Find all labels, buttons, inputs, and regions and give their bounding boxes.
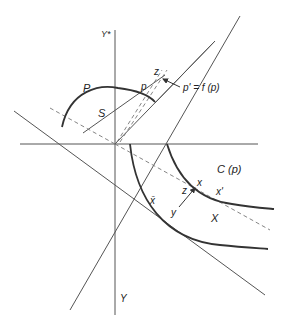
curve-C-p	[167, 144, 274, 209]
diagram: Y* Y P S p z p' = f (p) C (p) x x' z x̄ …	[0, 0, 288, 327]
label-z-top: z	[153, 66, 159, 77]
label-y: Y	[120, 293, 128, 304]
curve-P	[62, 87, 155, 127]
line-S	[83, 75, 165, 133]
label-X: X	[210, 212, 219, 224]
label-x-bar: x̄	[149, 195, 156, 206]
label-y-star: Y*	[101, 29, 111, 39]
line-steep	[70, 16, 240, 310]
label-S: S	[98, 107, 106, 119]
label-p: p	[140, 81, 147, 92]
label-P: P	[83, 82, 91, 94]
label-x-prime: x'	[215, 186, 224, 197]
diagram-canvas: Y* Y P S p z p' = f (p) C (p) x x' z x̄ …	[0, 0, 288, 327]
label-z-bottom: z	[181, 185, 187, 196]
label-p-prime: p' = f (p)	[182, 82, 220, 93]
label-C-p: C (p)	[217, 163, 242, 175]
label-y-point: y	[170, 207, 177, 218]
line-tangent	[155, 41, 215, 103]
dashed-line-p1	[117, 70, 162, 142]
label-x: x	[196, 177, 203, 188]
